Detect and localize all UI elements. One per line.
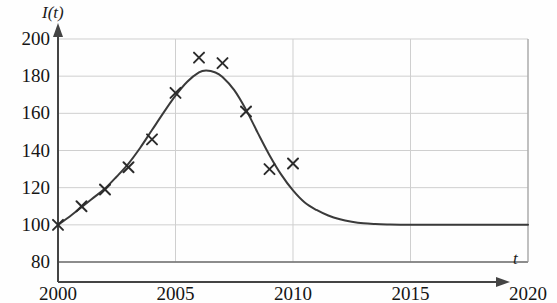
y-tick-label: 80 [2, 252, 50, 271]
y-axis-title: I(t) [42, 4, 64, 21]
gridlines [58, 39, 528, 262]
axes [53, 23, 510, 287]
y-tick-label: 180 [2, 66, 50, 85]
data-marker [265, 164, 275, 174]
y-tick-label: 120 [2, 178, 50, 197]
y-tick-label: 160 [2, 103, 50, 122]
data-marker [194, 53, 204, 63]
x-tick-label: 2010 [258, 284, 328, 303]
y-tick-label: 140 [2, 141, 50, 160]
x-tick-label: 2015 [376, 284, 446, 303]
data-marker [77, 201, 87, 211]
data-marker [218, 58, 228, 68]
x-tick-label: 2005 [141, 284, 211, 303]
data-marker [100, 185, 110, 195]
x-axis-title: t [513, 250, 518, 267]
y-tick-label: 200 [2, 29, 50, 48]
data-marker [147, 134, 157, 144]
chart-figure: I(t) t 80100120140160180200 200020052010… [0, 0, 557, 303]
plot-area [0, 0, 557, 303]
x-tick-label: 2000 [23, 284, 93, 303]
y-tick-label: 100 [2, 215, 50, 234]
x-tick-label: 2020 [493, 284, 557, 303]
